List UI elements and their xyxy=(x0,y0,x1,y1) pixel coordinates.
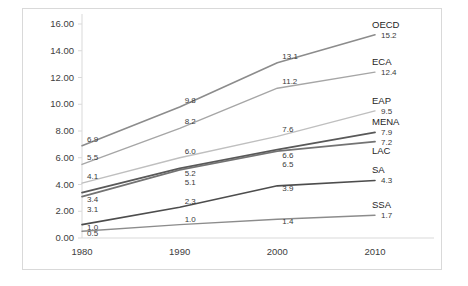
data-label: 6.0 xyxy=(185,147,196,156)
plot-area xyxy=(0,0,468,286)
data-label: 8.2 xyxy=(185,117,196,126)
series-line-lac xyxy=(82,142,375,197)
y-axis-tick-label: 8.00 xyxy=(30,125,74,136)
x-axis-tick-label: 1980 xyxy=(52,246,112,257)
data-label: 3.9 xyxy=(282,184,293,193)
series-end-value-mena: 7.9 xyxy=(381,128,392,137)
data-label: 3.1 xyxy=(87,205,98,214)
data-label: 6.9 xyxy=(87,135,98,144)
series-line-eap xyxy=(82,111,375,183)
data-label: 1.0 xyxy=(185,215,196,224)
x-axis-tick-label: 2000 xyxy=(247,246,307,257)
data-label: 5.5 xyxy=(87,153,98,162)
series-line-eca xyxy=(82,72,375,164)
data-label: 3.4 xyxy=(87,195,98,204)
series-line-sa xyxy=(82,180,375,224)
series-label-mena: MENA xyxy=(372,116,399,127)
series-end-value-eap: 9.5 xyxy=(381,107,392,116)
y-axis-tick-label: 4.00 xyxy=(30,179,74,190)
series-label-eca: ECA xyxy=(372,56,392,67)
series-label-lac: LAC xyxy=(372,145,390,156)
data-label: 7.6 xyxy=(282,125,293,134)
series-line-ssa xyxy=(82,215,375,231)
x-axis-tick-label: 1990 xyxy=(150,246,210,257)
series-end-value-sa: 4.3 xyxy=(381,176,392,185)
series-label-sa: SA xyxy=(372,164,385,175)
data-label: 11.2 xyxy=(282,77,297,86)
data-label: 6.6 xyxy=(282,151,293,160)
series-label-ssa: SSA xyxy=(372,199,391,210)
series-end-value-eca: 12.4 xyxy=(381,68,397,77)
y-axis-tick-label: 2.00 xyxy=(30,205,74,216)
data-label: 1.4 xyxy=(282,217,293,226)
x-axis-tick-label: 2010 xyxy=(345,246,405,257)
data-label: 6.5 xyxy=(282,160,293,169)
data-label: 13.1 xyxy=(282,52,298,61)
data-label: 9.8 xyxy=(185,96,196,105)
series-label-oecd: OECD xyxy=(372,19,399,30)
y-axis-tick-label: 14.00 xyxy=(30,45,74,56)
series-line-oecd xyxy=(82,35,375,146)
data-label: 5.1 xyxy=(185,178,196,187)
data-label: 4.1 xyxy=(87,172,98,181)
series-end-value-oecd: 15.2 xyxy=(381,31,397,40)
data-label: 0.5 xyxy=(87,229,98,238)
y-axis-tick-label: 10.00 xyxy=(30,98,74,109)
y-axis-tick-label: 0.00 xyxy=(30,232,74,243)
line-chart: 0.002.004.006.008.0010.0012.0014.0016.00… xyxy=(0,0,468,286)
y-axis-tick-label: 12.00 xyxy=(30,72,74,83)
y-axis-tick-label: 16.00 xyxy=(30,18,74,29)
series-label-eap: EAP xyxy=(372,95,391,106)
data-label: 2.3 xyxy=(185,197,196,206)
y-axis-tick-label: 6.00 xyxy=(30,152,74,163)
series-end-value-ssa: 1.7 xyxy=(381,211,392,220)
